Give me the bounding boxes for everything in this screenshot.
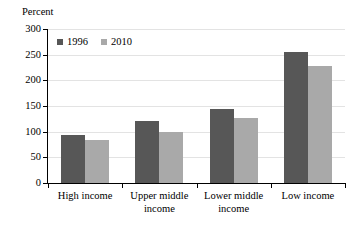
category-label-line: income <box>122 203 196 216</box>
y-axis-title: Percent <box>22 6 54 18</box>
gridline <box>48 29 345 30</box>
category-label-high-income: High income <box>48 190 122 203</box>
x-tick-mark <box>271 183 272 188</box>
chart-legend: 19962010 <box>57 36 132 48</box>
x-axis-end-mark <box>345 183 346 188</box>
legend-swatch-icon <box>101 39 107 45</box>
plot-area <box>48 29 345 183</box>
category-label-line: Low income <box>271 190 345 203</box>
y-tick-label-wrap: 200 <box>8 74 41 85</box>
y-tick-mark <box>43 29 47 30</box>
bar-2010-high-income <box>85 140 109 183</box>
x-tick-mark <box>197 183 198 188</box>
category-label-lower-middle-income: Lower middleincome <box>197 190 271 215</box>
legend-entry-2010: 2010 <box>101 36 132 48</box>
category-label-line: Upper middle <box>122 190 196 203</box>
y-tick-label: 50 <box>13 151 41 162</box>
bar-2010-lower-middle-income <box>234 118 258 183</box>
y-tick-label: 150 <box>13 100 41 111</box>
y-tick-label: 250 <box>13 49 41 60</box>
y-tick-label-wrap: 50 <box>8 151 41 162</box>
bar-1996-high-income <box>61 135 85 183</box>
bar-chart-figure: Percent 050100150200250300 High incomeUp… <box>0 0 357 228</box>
y-tick-label: 300 <box>13 23 41 34</box>
bar-2010-low-income <box>308 66 332 183</box>
y-tick-mark <box>43 132 47 133</box>
y-tick-label: 100 <box>13 126 41 137</box>
category-label-line: Lower middle <box>197 190 271 203</box>
y-tick-label-wrap: 0 <box>8 177 41 188</box>
y-tick-mark <box>43 106 47 107</box>
y-tick-mark <box>43 80 47 81</box>
x-axis-end-mark <box>48 183 49 188</box>
category-label-line: income <box>197 203 271 216</box>
y-tick-label-wrap: 150 <box>8 100 41 111</box>
y-tick-label: 200 <box>13 74 41 85</box>
bar-1996-lower-middle-income <box>210 109 234 183</box>
legend-swatch-icon <box>57 39 63 45</box>
y-tick-label: 0 <box>13 177 41 188</box>
bar-1996-low-income <box>284 52 308 183</box>
category-label-upper-middle-income: Upper middleincome <box>122 190 196 215</box>
y-tick-mark <box>43 55 47 56</box>
legend-label: 2010 <box>111 36 132 48</box>
legend-label: 1996 <box>67 36 88 48</box>
bar-2010-upper-middle-income <box>159 132 183 183</box>
category-label-line: High income <box>48 190 122 203</box>
bar-1996-upper-middle-income <box>135 121 159 183</box>
y-tick-label-wrap: 100 <box>8 126 41 137</box>
y-tick-mark <box>43 157 47 158</box>
y-tick-label-wrap: 250 <box>8 49 41 60</box>
category-label-low-income: Low income <box>271 190 345 203</box>
y-tick-mark <box>43 183 47 184</box>
y-tick-label-wrap: 300 <box>8 23 41 34</box>
legend-entry-1996: 1996 <box>57 36 88 48</box>
x-tick-mark <box>122 183 123 188</box>
